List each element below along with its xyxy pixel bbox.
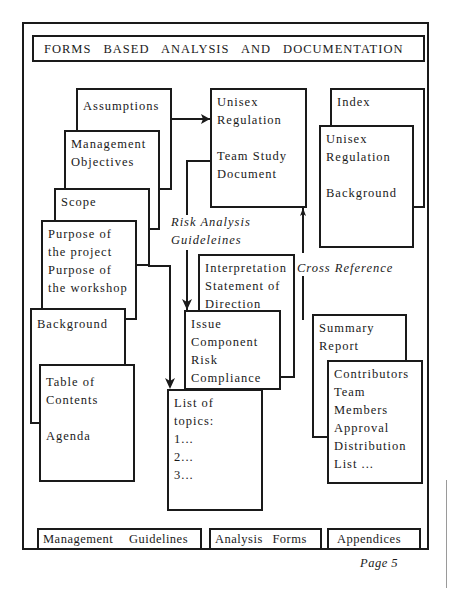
page-number: Page 5 xyxy=(360,556,398,571)
footer-appendices-label: Appendices xyxy=(337,532,401,546)
arrowhead-right-icon xyxy=(201,114,210,124)
footer-appendices: Appendices xyxy=(327,528,421,550)
arrowhead-up-icon xyxy=(300,208,306,216)
footer-management-guidelines: Management Guidelines xyxy=(37,528,202,550)
footer-analysis-forms-label: Analysis Forms xyxy=(215,532,307,546)
footer-management-guidelines-label: Management Guidelines xyxy=(43,532,188,546)
arrowhead-down-icon xyxy=(182,299,192,310)
footer-analysis-forms: Analysis Forms xyxy=(209,528,322,550)
arrowheads xyxy=(0,0,449,591)
arrowhead-down-icon xyxy=(165,378,175,389)
scan-edge xyxy=(446,480,447,588)
